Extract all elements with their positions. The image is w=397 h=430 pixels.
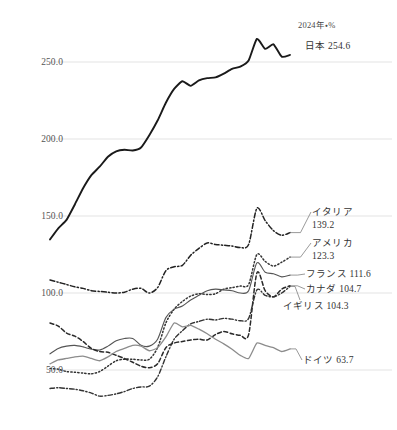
series-label-uk: イギリス 104.3 xyxy=(283,300,349,312)
series-label-italy-value: 139.2 xyxy=(312,219,353,232)
series-label-germany: ドイツ 63.7 xyxy=(303,354,354,366)
chart-container: 2024年・% 250.0 200.0 150.0 100.0 50.0 日本 … xyxy=(0,0,397,430)
series-line-イギリス xyxy=(50,286,290,396)
series-line-カナダ xyxy=(50,272,290,368)
y-axis-tick-50: 50.0 xyxy=(17,365,63,375)
series-label-canada: カナダ 104.7 xyxy=(306,283,362,295)
leader-line-ドイツ xyxy=(290,349,302,360)
y-axis-tick-100: 100.0 xyxy=(17,288,63,298)
series-label-italy: イタリア 139.2 xyxy=(312,206,353,231)
y-axis-tick-150: 150.0 xyxy=(17,211,63,221)
series-line-イタリア xyxy=(50,208,290,293)
series-label-japan: 日本 254.6 xyxy=(305,40,350,52)
series-line-フランス xyxy=(50,263,290,354)
series-label-italy-name: イタリア xyxy=(312,206,353,219)
y-axis-tick-200: 200.0 xyxy=(17,134,63,144)
series-label-america: アメリカ 123.3 xyxy=(312,237,353,262)
leader-line-アメリカ xyxy=(290,243,311,257)
leader-line-フランス xyxy=(290,274,305,275)
series-label-france: フランス 111.6 xyxy=(306,268,371,280)
series-label-america-value: 123.3 xyxy=(312,250,353,263)
series-label-america-name: アメリカ xyxy=(312,237,353,250)
series-lines xyxy=(50,39,290,396)
leader-line-イタリア xyxy=(290,212,311,233)
y-axis-tick-250: 250.0 xyxy=(17,57,63,67)
unit-note: 2024年・% xyxy=(298,18,335,30)
